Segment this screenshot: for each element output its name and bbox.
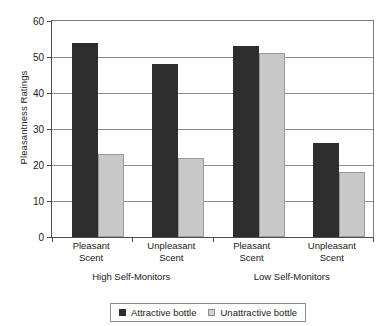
bar-group (52, 21, 132, 237)
bar-unattractive-bottle (339, 172, 365, 237)
legend-swatch-icon (119, 309, 126, 316)
y-axis-tick-label: 60 (33, 16, 44, 27)
plot-area: 0102030405060 (51, 20, 374, 238)
x-axis-label-line2: Scent (212, 252, 292, 264)
y-axis-tick-label: 0 (38, 232, 44, 243)
x-axis-label: Unpleasant Scent (131, 240, 211, 264)
bar-unattractive-bottle (178, 158, 204, 237)
bar-group (132, 21, 212, 237)
x-axis-label-line2: Scent (292, 252, 372, 264)
y-axis-tick-label: 30 (33, 124, 44, 135)
x-axis-group-label-low-self-monitors: Low Self-Monitors (212, 271, 373, 282)
x-axis-label-line1: Pleasant (51, 240, 131, 252)
x-axis-label-line2: Scent (51, 252, 131, 264)
x-axis-tick (373, 237, 374, 242)
x-axis-label: Pleasant Scent (212, 240, 292, 264)
y-axis-tick-label: 50 (33, 52, 44, 63)
bar-chart: Pleasantness Ratings 0102030405060 (0, 0, 391, 326)
legend-item-unattractive-bottle: Unattractive bottle (208, 307, 297, 318)
legend: Attractive bottle Unattractive bottle (110, 303, 306, 322)
x-axis-label-line1: Pleasant (212, 240, 292, 252)
bar-group (293, 21, 373, 237)
bar-attractive-bottle (313, 143, 339, 237)
y-axis-tick-label: 10 (33, 196, 44, 207)
x-axis-label: Pleasant Scent (51, 240, 131, 264)
legend-item-attractive-bottle: Attractive bottle (119, 307, 196, 318)
bar-attractive-bottle (152, 64, 178, 237)
bar-unattractive-bottle (259, 53, 285, 237)
y-axis-tick-label: 20 (33, 160, 44, 171)
bar-group (213, 21, 293, 237)
bar-groups (52, 21, 373, 237)
y-axis-title: Pleasantness Ratings (18, 43, 29, 193)
legend-label: Unattractive bottle (220, 307, 297, 318)
bar-attractive-bottle (233, 46, 259, 237)
bar-unattractive-bottle (98, 154, 124, 237)
x-axis-group-labels: High Self-Monitors Low Self-Monitors (51, 271, 372, 282)
legend-label: Attractive bottle (131, 307, 196, 318)
x-axis-label-line2: Scent (131, 252, 211, 264)
x-axis-label: Unpleasant Scent (292, 240, 372, 264)
x-axis-label-line1: Unpleasant (292, 240, 372, 252)
legend-swatch-icon (208, 309, 215, 316)
x-axis-labels: Pleasant Scent Unpleasant Scent Pleasant… (51, 240, 372, 264)
x-axis-label-line1: Unpleasant (131, 240, 211, 252)
y-axis-tick-label: 40 (33, 88, 44, 99)
bar-attractive-bottle (72, 43, 98, 237)
x-axis-group-label-high-self-monitors: High Self-Monitors (51, 271, 212, 282)
